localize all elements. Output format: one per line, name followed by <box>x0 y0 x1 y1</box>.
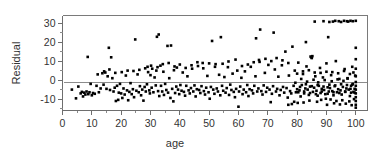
data-point <box>122 87 125 90</box>
data-point <box>160 85 163 88</box>
data-point <box>166 45 169 48</box>
data-point <box>219 94 222 97</box>
data-point <box>127 99 130 102</box>
data-point <box>138 69 141 72</box>
data-point <box>339 103 342 106</box>
data-point <box>82 95 85 98</box>
data-point <box>322 85 325 88</box>
data-point <box>111 77 114 80</box>
data-point <box>275 90 278 93</box>
residual-scatter-figure: -1001020300102030405060708090100ageResid… <box>0 0 381 161</box>
data-point <box>208 97 211 100</box>
data-point <box>155 69 158 72</box>
data-point <box>123 93 126 96</box>
data-point <box>168 77 171 80</box>
data-point <box>152 91 155 94</box>
y-tick-label: 20 <box>44 36 56 48</box>
data-point <box>220 36 223 39</box>
data-point <box>309 92 312 95</box>
data-point <box>179 84 182 87</box>
data-point <box>159 64 162 67</box>
data-point <box>354 58 357 61</box>
x-tick-label: 100 <box>347 117 365 129</box>
data-point <box>103 70 106 73</box>
data-point <box>296 72 299 75</box>
data-point <box>326 86 329 89</box>
data-point <box>312 78 315 81</box>
data-point <box>343 20 346 23</box>
data-point <box>336 91 339 94</box>
data-point <box>157 90 160 93</box>
data-point <box>190 87 193 90</box>
data-point <box>193 84 196 87</box>
data-point <box>150 86 153 89</box>
data-point <box>86 56 89 59</box>
data-point <box>349 88 352 91</box>
data-point <box>239 85 242 88</box>
data-point <box>172 100 175 103</box>
data-point <box>129 82 132 85</box>
data-point <box>302 70 305 73</box>
data-point <box>85 90 88 93</box>
data-point <box>259 28 262 31</box>
data-point <box>329 98 332 101</box>
data-point <box>114 72 117 75</box>
data-point <box>346 77 349 80</box>
data-point <box>354 106 357 109</box>
data-point <box>348 100 351 103</box>
data-point <box>325 62 328 65</box>
data-point <box>194 95 197 98</box>
data-point <box>224 91 227 94</box>
data-point <box>162 63 165 66</box>
data-point <box>253 85 256 88</box>
data-point <box>245 91 248 94</box>
data-point <box>244 70 247 73</box>
data-point <box>128 91 131 94</box>
data-point <box>130 93 133 96</box>
x-axis-ticks: 0102030405060708090100 <box>60 111 365 130</box>
data-point <box>352 20 355 23</box>
data-point <box>167 91 170 94</box>
data-point <box>351 83 354 86</box>
data-point <box>335 100 338 103</box>
data-point <box>330 74 333 77</box>
data-point <box>148 89 151 92</box>
data-point <box>222 89 225 92</box>
data-point <box>132 88 135 91</box>
data-point <box>120 92 123 95</box>
data-point <box>299 95 302 98</box>
data-point <box>353 91 356 94</box>
data-point <box>197 65 200 68</box>
data-point <box>251 89 254 92</box>
data-point <box>335 60 338 63</box>
data-point <box>326 92 329 95</box>
data-point <box>350 104 353 107</box>
data-point <box>256 90 259 93</box>
y-axis-ticks: -100102030 <box>40 17 62 109</box>
data-point <box>196 61 199 64</box>
data-point <box>327 90 330 93</box>
data-point <box>95 85 98 88</box>
y-tick-label: 0 <box>50 74 56 86</box>
data-point <box>320 88 323 91</box>
data-point <box>354 85 357 88</box>
data-point <box>288 74 291 77</box>
data-point <box>305 65 308 68</box>
data-point <box>231 72 234 75</box>
data-points <box>71 20 357 109</box>
data-point <box>144 90 147 93</box>
data-point <box>215 87 218 90</box>
data-point <box>325 97 328 100</box>
data-point <box>340 21 343 24</box>
data-point <box>121 97 124 100</box>
data-point <box>227 66 230 69</box>
data-point <box>218 73 221 76</box>
data-point <box>88 91 91 94</box>
data-point <box>328 21 331 24</box>
data-point <box>283 91 286 94</box>
x-tick-label: 10 <box>86 117 98 129</box>
data-point <box>247 63 250 66</box>
x-tick-label: 40 <box>174 117 186 129</box>
data-point <box>161 90 164 93</box>
data-point <box>272 31 275 34</box>
